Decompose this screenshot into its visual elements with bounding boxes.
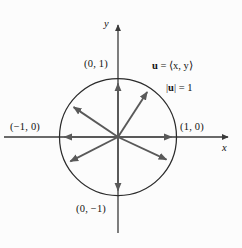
vector-146deg — [74, 107, 118, 137]
vector-207deg — [70, 137, 118, 161]
point-label-top: (0, 1) — [84, 59, 108, 70]
unit-circle-figure: u = ⟨x, y⟩ |u| = 1 (0, 1) (0, −1) (−1, 0… — [0, 0, 242, 248]
vector-57deg — [118, 92, 147, 137]
point-label-right: (1, 0) — [180, 122, 204, 133]
magnitude-rest: | = 1 — [174, 82, 193, 93]
vector-335deg — [118, 137, 167, 160]
vector-definition-rest: = ⟨x, y⟩ — [158, 60, 193, 71]
point-label-bottom: (0, −1) — [76, 204, 106, 215]
vector-magnitude-label: |u| = 1 — [166, 83, 192, 94]
point-label-left: (−1, 0) — [10, 122, 40, 133]
vector-group — [65, 84, 172, 191]
y-axis-label: y — [104, 19, 109, 30]
x-axis-label: x — [222, 143, 227, 154]
vector-definition-label: u = ⟨x, y⟩ — [152, 61, 193, 72]
